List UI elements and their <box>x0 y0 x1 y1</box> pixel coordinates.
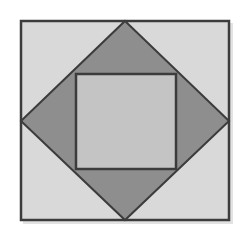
quilt-block-svg <box>0 0 241 237</box>
quilt-block-diagram <box>0 0 241 237</box>
inner-square <box>76 74 176 169</box>
